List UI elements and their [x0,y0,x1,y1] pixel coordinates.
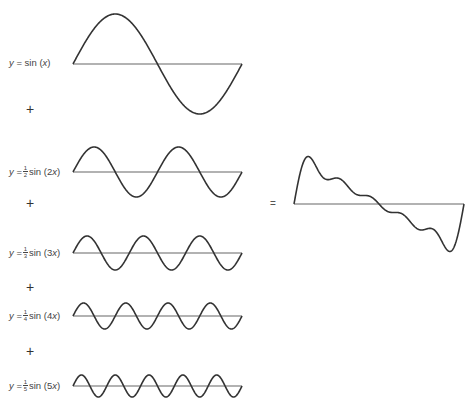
fourier-series-diagram [0,0,472,413]
